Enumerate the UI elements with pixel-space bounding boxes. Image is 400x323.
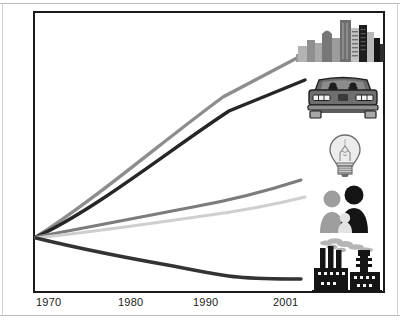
series-line-urban-development — [36, 58, 297, 237]
series-line-population — [36, 197, 305, 238]
page-border-right — [397, 3, 398, 316]
page-border-left — [2, 3, 3, 316]
xtick-label-1990: 1990 — [193, 296, 218, 308]
light-bulb-icon — [327, 133, 363, 178]
page-border-top — [0, 3, 400, 4]
xtick-label-1980: 1980 — [118, 296, 143, 308]
city-skyline-icon — [296, 14, 384, 62]
series-line-emissions — [36, 238, 301, 279]
chart-page: 1970 1980 1990 2001 — [0, 0, 400, 323]
page-border-bottom — [0, 315, 400, 316]
people-icon — [315, 183, 373, 233]
series-line-vehicles — [36, 80, 305, 237]
xtick-label-2001: 2001 — [273, 296, 298, 308]
car-icon — [303, 70, 383, 122]
xtick-label-1970: 1970 — [36, 296, 61, 308]
factory-icon — [308, 238, 384, 292]
